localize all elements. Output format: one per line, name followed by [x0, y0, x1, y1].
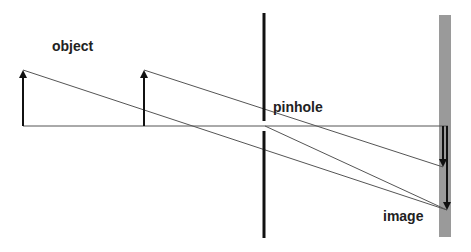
- image-label: image: [383, 208, 423, 224]
- ray-far-object: [23, 70, 447, 210]
- pinhole-label: pinhole: [273, 99, 323, 115]
- ray-near-object: [144, 70, 443, 167]
- object-label: object: [52, 38, 93, 54]
